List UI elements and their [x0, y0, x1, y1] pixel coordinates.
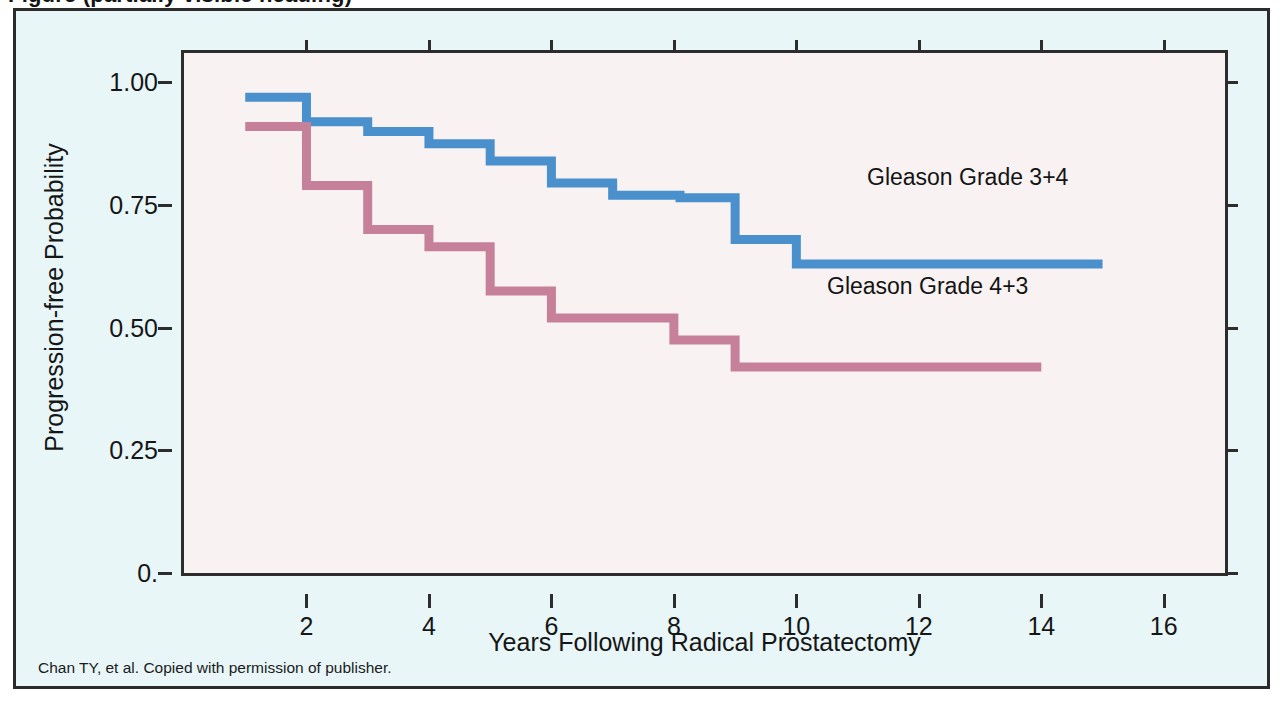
plot-canvas	[184, 53, 1225, 573]
y-tick-mark-right	[1225, 572, 1238, 575]
y-tick-label: 0.75	[38, 191, 158, 220]
step-curves-svg	[184, 53, 1225, 573]
x-tick-mark	[795, 594, 798, 608]
chart-region: Progression-free Probability 0.0.250.500…	[16, 11, 1267, 651]
x-tick-mark-top	[1163, 40, 1166, 53]
x-tick-mark-top	[1040, 40, 1043, 53]
y-tick-mark	[158, 572, 172, 575]
x-tick-mark	[550, 594, 553, 608]
plot-area: Gleason Grade 3+4Gleason Grade 4+3	[181, 50, 1228, 576]
figure-card: Progression-free Probability 0.0.250.500…	[13, 8, 1270, 689]
y-tick-mark	[158, 327, 172, 330]
series-annotation: Gleason Grade 4+3	[827, 273, 1028, 300]
x-axis-title: Years Following Radical Prostatectomy	[181, 628, 1228, 657]
x-tick-mark-top	[673, 40, 676, 53]
y-tick-mark	[158, 204, 172, 207]
y-tick-label: 0.	[38, 559, 158, 588]
y-tick-mark-right	[1225, 327, 1238, 330]
y-tick-mark-right	[1225, 204, 1238, 207]
x-tick-mark	[673, 594, 676, 608]
figure-footnote: Chan TY, et al. Copied with permission o…	[38, 659, 392, 677]
x-tick-mark	[428, 594, 431, 608]
step-curve-gleason-grade-4-3	[245, 127, 1041, 367]
x-tick-mark-top	[428, 40, 431, 53]
x-tick-mark-top	[795, 40, 798, 53]
y-axis-tick-labels: 0.0.250.500.751.00	[26, 50, 158, 576]
y-tick-mark-right	[1225, 81, 1238, 84]
y-tick-mark	[158, 81, 172, 84]
x-axis-tick-labels: 246810121416	[181, 594, 1228, 626]
y-tick-label: 0.50	[38, 313, 158, 342]
x-tick-mark	[305, 594, 308, 608]
x-tick-mark-top	[550, 40, 553, 53]
x-tick-mark-top	[918, 40, 921, 53]
series-annotation: Gleason Grade 3+4	[867, 164, 1068, 191]
x-tick-mark	[918, 594, 921, 608]
cut-off-heading: Figure (partially visible heading)	[0, 0, 1286, 7]
y-tick-mark	[158, 449, 172, 452]
cut-off-heading-text: Figure (partially visible heading)	[8, 0, 352, 7]
x-tick-mark-top	[305, 40, 308, 53]
y-tick-mark-right	[1225, 449, 1238, 452]
x-tick-mark	[1163, 594, 1166, 608]
y-tick-label: 0.25	[38, 436, 158, 465]
x-tick-mark	[1040, 594, 1043, 608]
y-tick-label: 1.00	[38, 68, 158, 97]
